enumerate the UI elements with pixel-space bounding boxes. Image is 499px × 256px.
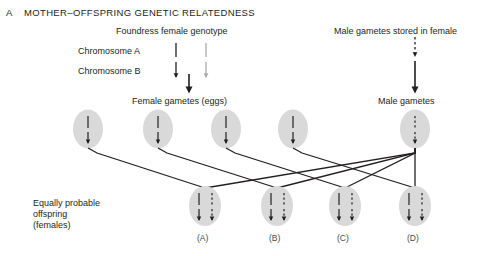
- maternal-line-b: [158, 148, 277, 188]
- female-gamete-cell: [211, 110, 241, 149]
- female-gamete-cells: [73, 110, 308, 149]
- female-gamete-cell: [143, 110, 173, 149]
- male-gamete-cell: [400, 110, 430, 149]
- offspring-cell: [329, 186, 361, 226]
- offspring-cell: [399, 186, 431, 226]
- maternal-inheritance-lines: [88, 148, 415, 188]
- offspring-cell: [189, 186, 221, 226]
- maternal-line-a: [88, 148, 205, 188]
- female-gamete-cell: [73, 110, 103, 149]
- offspring-cells: [189, 186, 431, 226]
- foundress-chromosome-b-marks: [176, 62, 206, 77]
- foundress-chromosome-a-marks: [176, 43, 206, 57]
- figure-canvas: A MOTHER–OFFSPRING GENETIC RELATEDNESS F…: [0, 0, 499, 256]
- offspring-cell: [261, 186, 293, 226]
- diagram-vector-layer: [0, 0, 499, 256]
- female-gamete-cell: [278, 110, 308, 149]
